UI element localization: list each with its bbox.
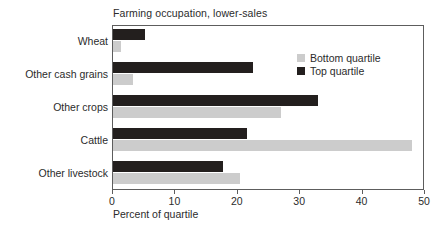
x-axis-tick-mark [362,190,363,194]
bar-bottom-quartile [113,107,281,118]
x-axis-ticks: 01020304050 [112,190,424,210]
chart-legend: Bottom quartileTop quartile [297,51,381,77]
chart-title: Farming occupation, lower-sales [113,7,267,19]
chart-figure: Farming occupation, lower-sales WheatOth… [0,0,448,229]
bar-top-quartile [113,29,145,40]
x-axis-title: Percent of quartile [113,208,198,220]
x-axis-tick-label: 50 [418,195,430,207]
bar-bottom-quartile [113,140,412,151]
legend-item: Top quartile [297,64,381,77]
y-axis-label: Wheat [0,35,108,47]
bar-top-quartile [113,62,253,73]
bar-bottom-quartile [113,74,133,85]
x-axis-tick-label: 10 [169,195,181,207]
bar-top-quartile [113,161,223,172]
y-axis-label: Cattle [0,134,108,146]
y-axis-category-labels: WheatOther cash grainsOther cropsCattleO… [0,25,108,190]
x-axis-tick-mark [237,190,238,194]
legend-swatch-icon [297,67,305,75]
bar-group [113,92,423,125]
legend-item: Bottom quartile [297,51,381,64]
bar-bottom-quartile [113,173,240,184]
x-axis-tick-mark [112,190,113,194]
y-axis-label: Other livestock [0,167,108,179]
legend-label: Bottom quartile [310,52,381,64]
y-axis-label: Other crops [0,101,108,113]
x-axis-tick-mark [174,190,175,194]
x-axis-tick-label: 0 [109,195,115,207]
bar-top-quartile [113,128,247,139]
bar-group [113,158,423,191]
legend-label: Top quartile [310,65,364,77]
bar-bottom-quartile [113,41,121,52]
bar-group [113,125,423,158]
plot-area [112,25,424,190]
x-axis-tick-label: 20 [231,195,243,207]
x-axis-tick-mark [299,190,300,194]
bar-top-quartile [113,95,318,106]
x-axis-tick-label: 40 [356,195,368,207]
x-axis-tick-mark [424,190,425,194]
x-axis-tick-label: 30 [293,195,305,207]
y-axis-label: Other cash grains [0,68,108,80]
legend-swatch-icon [297,54,305,62]
